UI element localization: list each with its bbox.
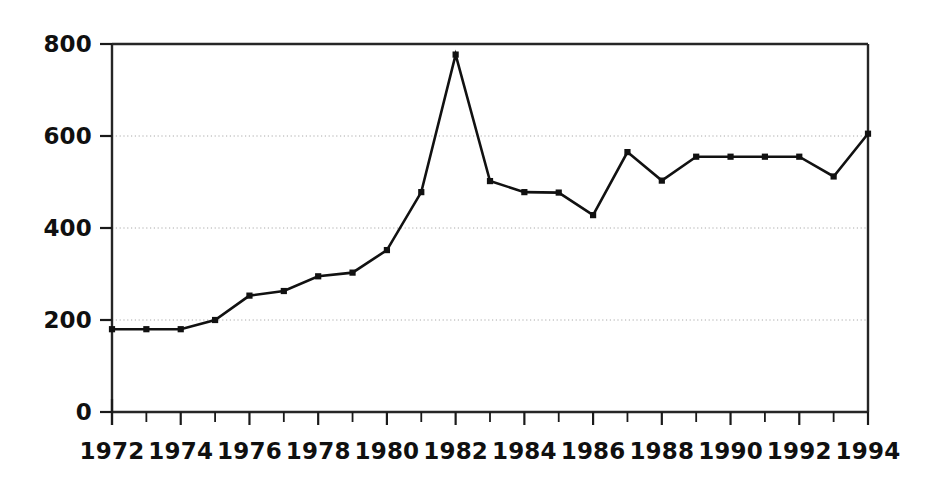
x-tick-label-1992: 1992 bbox=[767, 438, 832, 464]
x-tick-label-1984: 1984 bbox=[492, 438, 557, 464]
x-tick-label-1990: 1990 bbox=[698, 438, 763, 464]
y-tick-label-0: 0 bbox=[76, 399, 92, 425]
data-point-1986 bbox=[590, 212, 596, 218]
x-tick-label-1986: 1986 bbox=[561, 438, 626, 464]
x-tick-label-1988: 1988 bbox=[629, 438, 694, 464]
data-point-1990 bbox=[727, 154, 733, 160]
data-point-1982 bbox=[453, 51, 459, 57]
chart-background bbox=[0, 0, 926, 491]
x-tick-label-1980: 1980 bbox=[354, 438, 419, 464]
data-point-1984 bbox=[521, 189, 527, 195]
data-point-1987 bbox=[624, 149, 630, 155]
y-tick-label-400: 400 bbox=[43, 215, 92, 241]
data-point-1973 bbox=[143, 326, 149, 332]
y-tick-label-200: 200 bbox=[43, 307, 92, 333]
x-tick-label-1994: 1994 bbox=[836, 438, 901, 464]
data-point-1993 bbox=[831, 173, 837, 179]
x-tick-label-1982: 1982 bbox=[423, 438, 488, 464]
data-point-1994 bbox=[865, 131, 871, 137]
data-point-1991 bbox=[762, 154, 768, 160]
x-tick-label-1976: 1976 bbox=[217, 438, 282, 464]
data-point-1988 bbox=[659, 178, 665, 184]
line-chart: 0200400600800 19721974197619781980198219… bbox=[0, 0, 926, 491]
data-point-1978 bbox=[315, 273, 321, 279]
data-point-1981 bbox=[418, 189, 424, 195]
x-tick-label-1972: 1972 bbox=[80, 438, 145, 464]
chart-container: 0200400600800 19721974197619781980198219… bbox=[0, 0, 926, 491]
data-point-1983 bbox=[487, 178, 493, 184]
y-tick-label-800: 800 bbox=[43, 31, 92, 57]
data-point-1980 bbox=[384, 247, 390, 253]
data-point-1989 bbox=[693, 154, 699, 160]
x-tick-label-1978: 1978 bbox=[286, 438, 351, 464]
data-point-1975 bbox=[212, 317, 218, 323]
x-tick-label-1974: 1974 bbox=[148, 438, 213, 464]
data-point-1985 bbox=[556, 189, 562, 195]
data-point-1979 bbox=[349, 270, 355, 276]
data-point-1992 bbox=[796, 154, 802, 160]
data-point-1972 bbox=[109, 326, 115, 332]
y-tick-label-600: 600 bbox=[43, 123, 92, 149]
data-point-1976 bbox=[246, 293, 252, 299]
data-point-1974 bbox=[178, 326, 184, 332]
data-point-1977 bbox=[281, 288, 287, 294]
